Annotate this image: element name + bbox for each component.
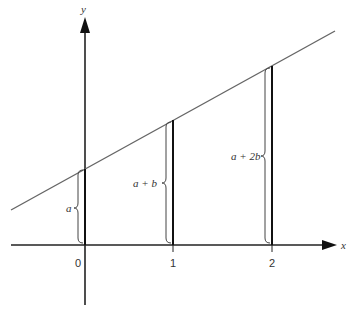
y-axis-arrow-icon xyxy=(80,17,90,33)
tick-label-0: 0 xyxy=(75,257,81,269)
segment-label-a-plus-b: a + b xyxy=(133,177,157,189)
brace-a-plus-b-icon xyxy=(162,122,171,243)
tick-label-2: 2 xyxy=(269,257,275,269)
x-axis-arrow-icon xyxy=(322,240,337,250)
tick-label-1: 1 xyxy=(170,257,176,269)
brace-a-plus-2b-icon xyxy=(261,68,270,243)
y-axis-label: y xyxy=(80,3,86,15)
segment-label-a-plus-2b: a + 2b xyxy=(231,150,261,162)
brace-a-icon xyxy=(74,170,83,243)
linear-diagram: x y a a + b a + 2b 0 1 2 xyxy=(0,0,353,311)
x-axis-label: x xyxy=(340,239,346,251)
segment-label-a: a xyxy=(66,202,72,214)
